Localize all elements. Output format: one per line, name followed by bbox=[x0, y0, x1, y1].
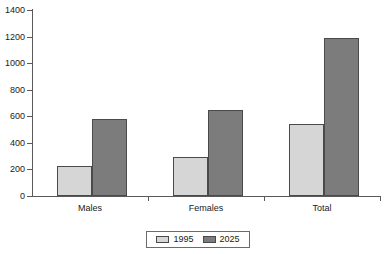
bar-total-1995 bbox=[289, 124, 324, 196]
y-axis-tick-label-text: 600 bbox=[0, 112, 25, 121]
y-axis-tick-label-text: 1000 bbox=[0, 59, 25, 68]
x-axis-label-total: Total bbox=[264, 203, 380, 214]
y-axis-tick-label: 200 bbox=[0, 165, 25, 174]
y-axis-tick-label: 600 bbox=[0, 112, 25, 121]
legend-label-1995: 1995 bbox=[173, 235, 193, 244]
bar-males-1995 bbox=[57, 166, 92, 196]
chart-legend: 1995 2025 bbox=[146, 231, 250, 248]
legend-swatch-icon-1995 bbox=[156, 236, 169, 243]
y-axis-tick-label-text: 0 bbox=[0, 192, 25, 201]
y-axis-tick-label-text: 800 bbox=[0, 86, 25, 95]
bar-females-2025 bbox=[208, 110, 243, 196]
y-axis-tick-label-text: 1400 bbox=[0, 6, 25, 15]
x-axis-label-males: Males bbox=[32, 203, 148, 214]
y-axis-tick-label: 1400 bbox=[0, 6, 25, 15]
bar-total-2025 bbox=[324, 38, 359, 196]
plot-area bbox=[32, 10, 380, 196]
y-axis-tick-label: 400 bbox=[0, 139, 25, 148]
x-axis-line bbox=[32, 196, 380, 197]
y-axis-tick-label-text: 400 bbox=[0, 139, 25, 148]
legend-label-2025: 2025 bbox=[220, 235, 240, 244]
x-axis-tick bbox=[264, 196, 265, 201]
y-axis-tick-label: 0 bbox=[0, 192, 25, 201]
bar-females-1995 bbox=[173, 157, 208, 196]
x-axis-tick bbox=[148, 196, 149, 201]
y-axis-tick-label: 1000 bbox=[0, 59, 25, 68]
x-axis-label-females: Females bbox=[148, 203, 264, 214]
legend-entry-2025: 2025 bbox=[203, 235, 240, 244]
y-axis-tick-label-text: 200 bbox=[0, 165, 25, 174]
bar-chart: 0200400600800100012001400 MalesFemalesTo… bbox=[0, 0, 389, 254]
legend-swatch-icon-2025 bbox=[203, 236, 216, 243]
y-axis-tick-label: 800 bbox=[0, 86, 25, 95]
y-axis-tick-label-text: 1200 bbox=[0, 33, 25, 42]
bar-males-2025 bbox=[92, 119, 127, 196]
x-axis-tick bbox=[380, 196, 381, 201]
legend-entry-1995: 1995 bbox=[156, 235, 193, 244]
y-axis-tick bbox=[27, 196, 32, 197]
y-axis-tick-label: 1200 bbox=[0, 33, 25, 42]
